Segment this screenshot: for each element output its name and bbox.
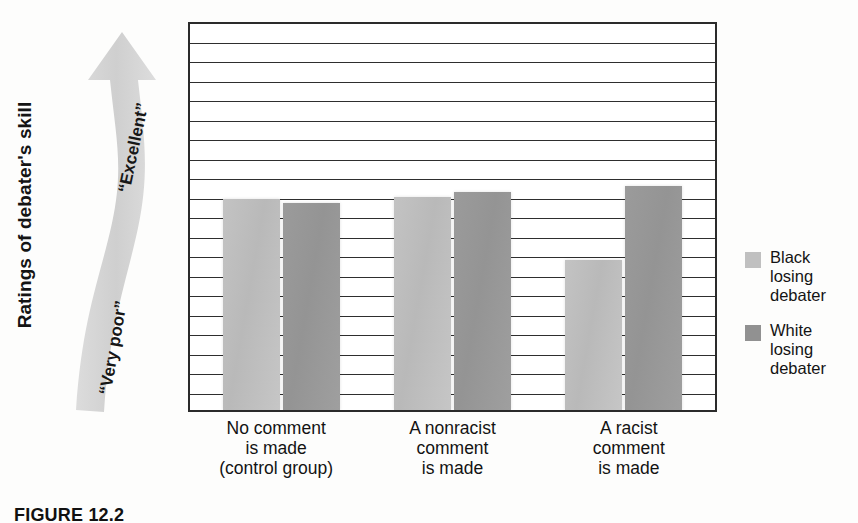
gridline <box>190 257 715 258</box>
x-axis-label: A racistcommentis made <box>549 418 709 498</box>
gridline <box>190 43 715 44</box>
gridline <box>190 335 715 336</box>
legend-swatch-icon <box>745 252 761 268</box>
chart-legend: BlacklosingdebaterWhitelosingdebater <box>745 248 853 394</box>
x-axis-label-line: is made <box>549 458 709 478</box>
gridline <box>190 296 715 297</box>
y-axis-title-text: Ratings of debater's skill <box>14 102 36 329</box>
x-axis-label: A nonracistcommentis made <box>372 418 532 498</box>
legend-label: Blacklosingdebater <box>770 248 826 305</box>
x-axis-label-line: comment <box>372 438 532 458</box>
gridline <box>190 355 715 356</box>
gridline <box>190 277 715 278</box>
legend-label-line: losing <box>770 340 826 359</box>
gridline <box>190 394 715 395</box>
bar <box>394 197 451 410</box>
legend-label-line: debater <box>770 286 826 305</box>
x-axis-label-line: comment <box>549 438 709 458</box>
legend-label-line: losing <box>770 267 826 286</box>
bar <box>625 186 682 410</box>
x-axis-label-line: is made <box>372 458 532 478</box>
figure-caption: FIGURE 12.2 <box>14 505 124 523</box>
gridline <box>190 218 715 219</box>
x-axis-label: No commentis made(control group) <box>196 418 356 498</box>
legend-label-line: White <box>770 321 826 340</box>
gridline <box>190 160 715 161</box>
x-axis-labels: No commentis made(control group)A nonrac… <box>188 418 717 498</box>
gridline <box>190 199 715 200</box>
gridline <box>190 23 715 24</box>
gridline <box>190 140 715 141</box>
gridline <box>190 238 715 239</box>
legend-label: Whitelosingdebater <box>770 321 826 378</box>
gridline <box>190 179 715 180</box>
legend-label-line: Black <box>770 248 826 267</box>
x-axis-label-line: (control group) <box>196 458 356 478</box>
gridline <box>190 316 715 317</box>
bar <box>454 192 511 410</box>
x-axis-label-line: No comment <box>196 418 356 438</box>
gridline <box>190 82 715 83</box>
gridline <box>190 121 715 122</box>
plot-frame <box>188 22 717 412</box>
bar <box>223 199 280 410</box>
legend-item[interactable]: Blacklosingdebater <box>745 248 853 305</box>
gridline <box>190 374 715 375</box>
plot-area: 21 1 <box>188 22 717 412</box>
bar <box>283 203 340 410</box>
x-axis-label-line: A racist <box>549 418 709 438</box>
gridline <box>190 101 715 102</box>
gridline <box>190 62 715 63</box>
y-axis-title: Ratings of debater's skill <box>2 0 48 430</box>
x-axis-label-line: is made <box>196 438 356 458</box>
scale-arrow: “Excellent” “Very poor” <box>52 18 172 418</box>
legend-item[interactable]: Whitelosingdebater <box>745 321 853 378</box>
legend-label-line: debater <box>770 359 826 378</box>
figure-root: Ratings of debater's skill “Excellent” “… <box>0 0 858 523</box>
x-axis-label-line: A nonracist <box>372 418 532 438</box>
legend-swatch-icon <box>745 325 761 341</box>
